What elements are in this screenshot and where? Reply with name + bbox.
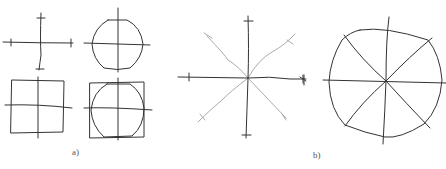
panel-a-label: a) xyxy=(72,147,79,157)
divided-circle-sketch xyxy=(300,17,446,144)
star-sketch xyxy=(178,16,306,138)
cross-sketch xyxy=(3,13,73,70)
figure: a) b) xyxy=(0,0,446,169)
square-cross-sketch xyxy=(5,77,72,138)
panel-b-label: b) xyxy=(313,150,321,160)
circle-cross-sketch xyxy=(84,8,150,72)
circle-in-square-sketch xyxy=(84,78,152,140)
